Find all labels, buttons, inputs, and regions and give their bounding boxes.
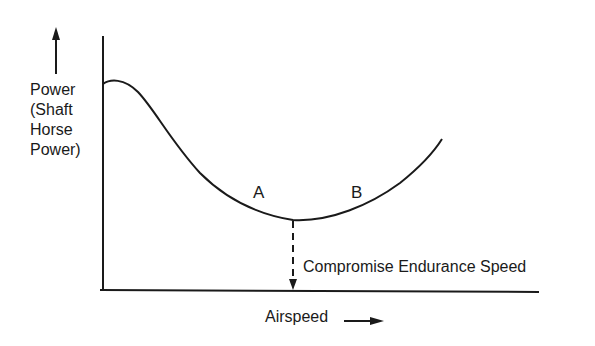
y-axis-label: Power (Shaft Horse Power) (30, 80, 81, 160)
compromise-endurance-speed-label: Compromise Endurance Speed (303, 257, 526, 277)
y-axis-label-line: Power (30, 80, 81, 100)
power-curve (103, 81, 442, 221)
y-axis-label-line: Power) (30, 140, 81, 160)
y-axis-label-line: (Shaft (30, 100, 81, 120)
x-axis-label: Airspeed (265, 307, 328, 327)
dashed-arrow-icon (289, 221, 297, 290)
x-axis (100, 290, 539, 292)
power-airspeed-diagram (0, 0, 595, 346)
x-arrow-icon (344, 317, 384, 325)
y-axis-label-line: Horse (30, 120, 81, 140)
point-b-label: B (351, 183, 362, 203)
y-arrow-icon (52, 27, 60, 74)
point-a-label: A (253, 183, 264, 203)
